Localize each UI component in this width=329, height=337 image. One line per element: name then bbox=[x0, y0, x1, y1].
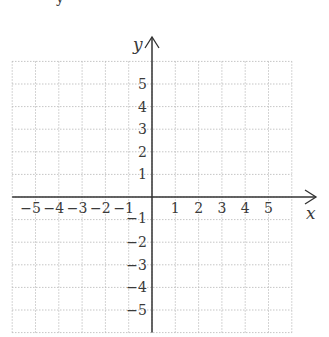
y-tick-label: −3 bbox=[126, 257, 147, 273]
coordinate-plane: y −5−4−3−2−112345 −5−4−3−2−112345 x y bbox=[0, 0, 329, 337]
x-tick-label: −5 bbox=[20, 200, 41, 216]
x-tick-label: 3 bbox=[217, 200, 226, 216]
x-tick-label: 1 bbox=[171, 200, 180, 216]
y-tick-label: −1 bbox=[126, 210, 147, 226]
cut-off-text: y bbox=[55, 0, 64, 6]
x-tick-label: 5 bbox=[264, 200, 273, 216]
y-tick-label: 5 bbox=[138, 76, 147, 92]
x-tick-label: −4 bbox=[43, 200, 64, 216]
x-axis-label: x bbox=[306, 203, 316, 223]
x-tick-label: 2 bbox=[194, 200, 203, 216]
cut-off-header-text: y bbox=[55, 0, 64, 6]
y-tick-label: −5 bbox=[126, 302, 147, 318]
x-tick-label: 4 bbox=[241, 200, 250, 216]
x-tick-label: −2 bbox=[90, 200, 111, 216]
x-tick-label: −3 bbox=[67, 200, 88, 216]
y-tick-label: −2 bbox=[126, 234, 147, 250]
y-tick-label: −4 bbox=[126, 279, 147, 295]
y-tick-label: 4 bbox=[138, 99, 147, 115]
y-tick-label: 1 bbox=[138, 166, 147, 182]
y-axis-label: y bbox=[132, 34, 143, 54]
y-tick-label: 3 bbox=[138, 121, 147, 137]
axes bbox=[12, 37, 316, 333]
y-tick-label: 2 bbox=[138, 144, 147, 160]
